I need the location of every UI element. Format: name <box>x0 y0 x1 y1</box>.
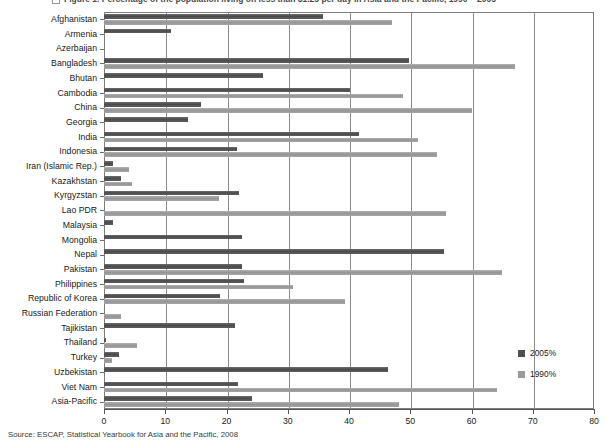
chart-legend: 2005%1990% <box>518 349 556 391</box>
bar-1990 <box>104 388 497 393</box>
y-axis-tick <box>100 78 104 79</box>
bar-1990 <box>104 182 132 187</box>
bar-1990 <box>104 167 129 172</box>
x-axis-tick-label: 0 <box>102 416 107 426</box>
bar-row: China <box>104 100 594 115</box>
category-label: Iran (Islamic Rep.) <box>26 160 97 173</box>
category-label: Malaysia <box>63 219 97 232</box>
bar-2005 <box>104 14 323 19</box>
category-label: Pakistan <box>64 263 97 276</box>
category-label: Kazakhstan <box>52 175 97 188</box>
category-label: Cambodia <box>57 87 97 100</box>
category-label: Armenia <box>65 28 97 41</box>
bar-2005 <box>104 352 119 357</box>
bar-row: Kazakhstan <box>104 174 594 189</box>
bar-2005 <box>104 88 350 93</box>
bar-2005 <box>104 220 113 225</box>
x-axis-tick <box>594 409 595 414</box>
x-axis-tick-label: 10 <box>160 416 170 426</box>
bar-row: Afghanistan <box>104 12 594 27</box>
category-label: Indonesia <box>59 145 97 158</box>
x-axis-tick <box>104 409 105 414</box>
x-axis-tick-label: 40 <box>344 416 354 426</box>
category-label: India <box>78 131 97 144</box>
bar-row: Bangladesh <box>104 56 594 71</box>
bar-row: Indonesia <box>104 144 594 159</box>
legend-swatch-icon <box>518 371 525 378</box>
bar-row: Armenia <box>104 27 594 42</box>
bar-row: Kyrgyzstan <box>104 188 594 203</box>
category-label: Uzbekistan <box>54 366 97 379</box>
bar-1990 <box>104 138 418 143</box>
y-axis-tick <box>100 225 104 226</box>
y-axis-tick <box>100 372 104 373</box>
bar-2005 <box>104 73 263 78</box>
bar-row: Russian Federation <box>104 306 594 321</box>
category-label: Thailand <box>64 336 97 349</box>
bar-2005 <box>104 102 201 107</box>
bar-2005 <box>104 58 409 63</box>
bar-row: Georgia <box>104 115 594 130</box>
bar-1990 <box>104 314 121 319</box>
bar-row: Lao PDR <box>104 203 594 218</box>
bar-row: Azerbaijan <box>104 41 594 56</box>
bar-row: Asia-Pacific <box>104 394 594 409</box>
bar-2005 <box>104 367 388 372</box>
figure-page: Figure 1. Percentage of the population l… <box>0 0 610 447</box>
bar-2005 <box>104 382 238 387</box>
category-label: Russian Federation <box>22 307 97 320</box>
bar-2005 <box>104 294 220 299</box>
bar-1990 <box>104 196 219 201</box>
legend-item[interactable]: 2005% <box>518 349 556 358</box>
bar-1990 <box>104 270 502 275</box>
x-axis-tick <box>288 409 289 414</box>
bar-row: Republic of Korea <box>104 291 594 306</box>
category-label: Nepal <box>74 248 97 261</box>
legend-item[interactable]: 1990% <box>518 370 556 379</box>
category-label: Viet Nam <box>61 381 97 394</box>
category-label: Republic of Korea <box>28 292 97 305</box>
bar-1990 <box>104 285 293 290</box>
x-axis-tick-label: 20 <box>222 416 232 426</box>
bar-2005 <box>104 132 359 137</box>
bar-1990 <box>104 402 399 407</box>
legend-swatch-icon <box>518 350 525 357</box>
bar-2005 <box>104 117 188 122</box>
bar-row: Nepal <box>104 247 594 262</box>
category-label: Mongolia <box>62 234 97 247</box>
x-axis-tick-label: 80 <box>589 416 599 426</box>
y-axis-tick <box>100 49 104 50</box>
x-axis: 01020304050607080 <box>104 409 594 410</box>
bar-1990 <box>104 20 392 25</box>
category-label: Tajikistan <box>61 322 97 335</box>
category-label: China <box>74 101 97 114</box>
y-axis-tick <box>100 328 104 329</box>
source-note: Source: ESCAP, Statistical Yearbook for … <box>8 430 238 439</box>
bar-1990 <box>104 152 437 157</box>
bar-2005 <box>104 249 444 254</box>
bar-1990 <box>104 358 112 363</box>
x-axis-tick-label: 50 <box>405 416 415 426</box>
bar-1990 <box>104 343 137 348</box>
x-axis-tick <box>165 409 166 414</box>
category-label: Georgia <box>66 116 97 129</box>
bar-row: Bhutan <box>104 71 594 86</box>
bar-2005 <box>104 235 242 240</box>
bar-2005 <box>104 147 237 152</box>
bar-row: Mongolia <box>104 233 594 248</box>
category-label: Bhutan <box>69 72 97 85</box>
x-axis-tick <box>227 409 228 414</box>
bar-row: Thailand <box>104 335 594 350</box>
figure-title: Figure 1. Percentage of the population l… <box>64 0 604 8</box>
x-axis-tick <box>472 409 473 414</box>
figure-marker-icon <box>52 0 60 4</box>
x-axis-tick-label: 60 <box>467 416 477 426</box>
x-axis-tick-label: 30 <box>283 416 293 426</box>
x-axis-tick <box>410 409 411 414</box>
bar-row: Philippines <box>104 277 594 292</box>
x-axis-tick-label: 70 <box>528 416 538 426</box>
bar-2005 <box>104 29 171 34</box>
bar-1990 <box>104 108 472 113</box>
bar-2005 <box>104 191 239 196</box>
bar-row: India <box>104 130 594 145</box>
